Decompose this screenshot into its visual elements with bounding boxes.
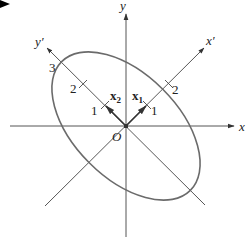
y-prime-tick-2: 2: [70, 81, 77, 96]
x-prime-tick-1: 1: [151, 103, 158, 118]
y-prime-axis-label: y′: [33, 34, 44, 49]
origin-point: [124, 124, 128, 128]
y-axis-label: y: [118, 0, 126, 13]
vector-x1-label: x1: [132, 88, 144, 105]
ellipse-principal-axes-diagram: x y x′ y′ O 1 2 3 1 2 x2 x1: [0, 0, 250, 238]
y-prime-tick-3: 3: [49, 60, 56, 75]
x-prime-tick-2: 2: [172, 82, 179, 97]
corner-marker-icon: [0, 0, 10, 8]
origin-label: O: [112, 129, 122, 144]
vector-x2-label: x2: [110, 88, 122, 105]
vector-x1-arrow: [126, 106, 146, 126]
x-axis-label: x: [238, 119, 245, 134]
x-prime-axis-label: x′: [205, 33, 215, 48]
vector-x2-arrow: [106, 106, 126, 126]
y-prime-tick-1: 1: [91, 103, 98, 118]
